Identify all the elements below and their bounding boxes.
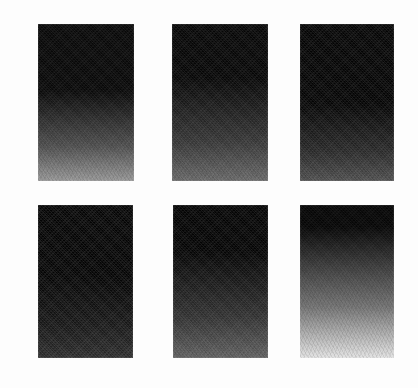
halftone-texture-overlay-secondary [300,24,394,181]
halftone-texture-overlay-secondary [38,24,134,181]
gradient-panel [38,205,133,358]
gradient-panel [300,205,394,358]
gradient-panel [172,24,268,181]
halftone-texture-overlay-secondary [172,24,268,181]
gradient-panel [173,205,268,358]
halftone-texture-overlay-secondary [173,205,268,358]
figure-canvas [0,0,418,388]
gradient-panel [300,24,394,181]
gradient-panel [38,24,134,181]
halftone-texture-overlay-secondary [38,205,133,358]
halftone-texture-overlay-secondary [300,205,394,358]
